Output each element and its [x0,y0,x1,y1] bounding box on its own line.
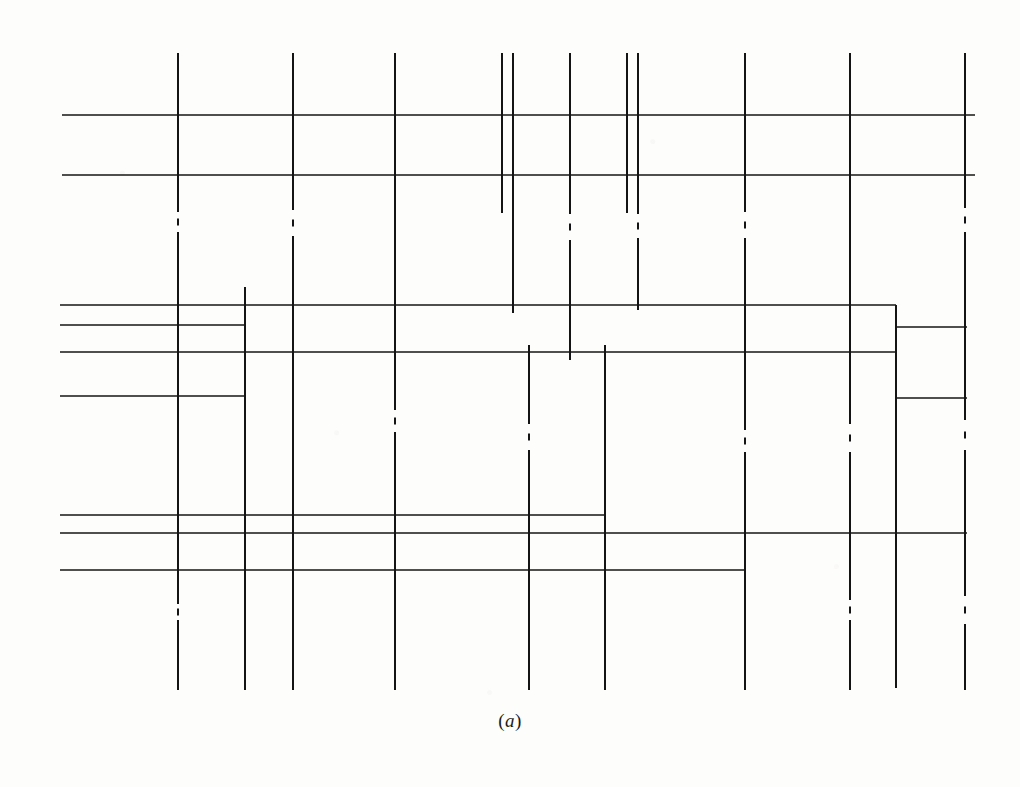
figure-page: (a) [0,0,1020,787]
engineering-line-drawing [0,0,1020,787]
vertical-lines-group [178,53,965,690]
caption-open-paren: ( [498,710,505,731]
caption-label: a [505,710,515,731]
caption-close-paren: ) [515,710,522,731]
horizontal-lines-group [60,115,975,570]
figure-caption: (a) [0,710,1020,732]
